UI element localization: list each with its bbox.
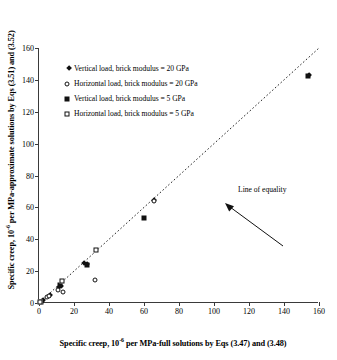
y-axis-title: Specific creep, 10-6 per MPa-approximate… bbox=[1, 10, 15, 310]
x-tick-label: 140 bbox=[278, 307, 290, 316]
legend-marker-filled-diamond-icon bbox=[62, 64, 71, 73]
x-tick-label: 100 bbox=[208, 307, 220, 316]
x-axis-title-post: per MPa-full solutions by Eqs (3.47) and… bbox=[124, 339, 286, 348]
y-tick-label: 120 bbox=[22, 107, 34, 116]
chart-legend: Vertical load, brick modulus = 20 GPaHor… bbox=[62, 61, 252, 121]
x-tick-label: 60 bbox=[140, 307, 148, 316]
x-tick-mark bbox=[284, 302, 285, 306]
legend-item: Horizontal load, brick modulus = 20 GPa bbox=[62, 76, 252, 91]
data-point bbox=[93, 277, 98, 282]
legend-marker-open-circle-icon bbox=[62, 79, 71, 88]
legend-marker-glyph bbox=[64, 111, 69, 116]
legend-item: Vertical load, brick modulus = 5 GPa bbox=[62, 91, 252, 106]
scatter-chart-figure: Specific creep, 10-6 per MPa-approximate… bbox=[0, 0, 337, 360]
data-point bbox=[151, 199, 156, 204]
y-tick-mark bbox=[35, 176, 39, 177]
x-tick-label: 120 bbox=[243, 307, 255, 316]
y-tick-mark bbox=[35, 80, 39, 81]
x-tick-mark bbox=[144, 302, 145, 306]
x-tick-label: 160 bbox=[313, 307, 325, 316]
data-point bbox=[37, 300, 42, 305]
legend-marker-open-square-icon bbox=[62, 109, 71, 118]
y-tick-mark bbox=[35, 144, 39, 145]
y-tick-label: 140 bbox=[22, 75, 34, 84]
x-axis-title-pre: Specific creep, 10 bbox=[60, 339, 120, 348]
x-tick-label: 40 bbox=[105, 307, 113, 316]
legend-item: Vertical load, brick modulus = 20 GPa bbox=[62, 61, 252, 76]
x-tick-label: 20 bbox=[70, 307, 78, 316]
x-tick-mark bbox=[319, 302, 320, 306]
y-axis-title-post: per MPa-approximate solutions by Eqs (3.… bbox=[7, 30, 16, 225]
data-point bbox=[85, 262, 90, 267]
x-axis-title: Specific creep, 10-6 per MPa-full soluti… bbox=[18, 337, 328, 348]
data-point bbox=[305, 73, 310, 78]
y-axis-title-pre: Specific creep, 10 bbox=[7, 230, 16, 290]
x-tick-mark bbox=[179, 302, 180, 306]
x-tick-label: 0 bbox=[37, 307, 41, 316]
annotation-arrow-icon bbox=[225, 203, 285, 248]
y-tick-label: 100 bbox=[22, 139, 34, 148]
x-tick-mark bbox=[109, 302, 110, 306]
y-tick-label: 60 bbox=[26, 203, 34, 212]
data-point bbox=[46, 293, 51, 298]
y-tick-mark bbox=[35, 112, 39, 113]
legend-label: Vertical load, brick modulus = 20 GPa bbox=[74, 64, 189, 73]
y-tick-label: 0 bbox=[30, 299, 34, 308]
y-tick-label: 20 bbox=[26, 267, 34, 276]
y-tick-label: 40 bbox=[26, 235, 34, 244]
legend-label: Horizontal load, brick modulus = 20 GPa bbox=[74, 79, 198, 88]
legend-item: Horizontal load, brick modulus = 5 GPa bbox=[62, 106, 252, 121]
x-tick-mark bbox=[249, 302, 250, 306]
legend-marker-filled-square-icon bbox=[62, 94, 71, 103]
data-point bbox=[60, 290, 65, 295]
x-tick-label: 80 bbox=[175, 307, 183, 316]
legend-label: Horizontal load, brick modulus = 5 GPa bbox=[74, 109, 194, 118]
legend-marker-glyph bbox=[64, 96, 69, 101]
y-tick-label: 80 bbox=[26, 171, 34, 180]
y-tick-mark bbox=[35, 207, 39, 208]
annotation-label-line-of-equality: Line of equality bbox=[238, 185, 287, 194]
y-tick-mark bbox=[35, 239, 39, 240]
data-point bbox=[93, 248, 98, 253]
data-point bbox=[59, 279, 64, 284]
x-tick-mark bbox=[214, 302, 215, 306]
y-axis-title-exponent: -6 bbox=[5, 225, 11, 230]
y-tick-label: 160 bbox=[22, 44, 34, 53]
y-tick-mark bbox=[35, 271, 39, 272]
legend-label: Vertical load, brick modulus = 5 GPa bbox=[74, 94, 185, 103]
data-point bbox=[142, 215, 147, 220]
y-tick-mark bbox=[35, 48, 39, 49]
x-tick-mark bbox=[74, 302, 75, 306]
legend-marker-glyph bbox=[64, 81, 69, 86]
legend-marker-glyph bbox=[66, 65, 72, 71]
